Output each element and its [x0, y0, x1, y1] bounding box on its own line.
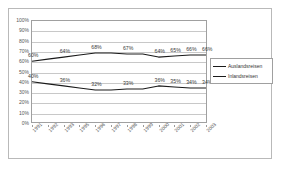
data-label: 35%: [170, 78, 180, 84]
series-line-auslandsreisen: [32, 53, 206, 61]
chart-legend: Auslandsreisen Inlandsreisen: [210, 58, 273, 84]
data-label: 68%: [91, 44, 101, 50]
data-label: 36%: [60, 77, 70, 83]
y-tick-label: 0%: [22, 120, 29, 126]
data-label: 34%: [186, 79, 196, 85]
y-tick-label: 10%: [19, 110, 29, 116]
data-label: 64%: [155, 48, 165, 54]
data-label: 66%: [202, 46, 212, 52]
chart-figure: 100%90%80%70%60%50%40%30%20%10%0% 60%64%…: [0, 0, 282, 169]
y-tick-label: 90%: [19, 27, 29, 33]
series-lines: [31, 20, 207, 123]
legend-entry-inlandsreisen[interactable]: Inlandsreisen: [213, 72, 273, 81]
data-label: 64%: [60, 48, 70, 54]
data-label: 32%: [91, 81, 101, 87]
y-tick-label: 30%: [19, 89, 29, 95]
y-axis: 100%90%80%70%60%50%40%30%20%10%0%: [8, 20, 29, 123]
legend-line-swatch: [213, 76, 226, 77]
data-label: 60%: [28, 52, 38, 58]
data-label: 33%: [123, 80, 133, 86]
y-tick-label: 20%: [19, 99, 29, 105]
y-tick-label: 60%: [19, 58, 29, 64]
y-tick-label: 40%: [19, 79, 29, 85]
legend-label: Inlandsreisen: [228, 72, 258, 81]
legend-line-swatch: [213, 66, 226, 67]
data-label: 67%: [123, 45, 133, 51]
data-label: 65%: [170, 47, 180, 53]
data-label: 36%: [155, 77, 165, 83]
y-tick-label: 80%: [19, 38, 29, 44]
x-axis: 1991199219931995199619971998199920002001…: [31, 125, 211, 153]
data-label: 66%: [186, 46, 196, 52]
data-label: 40%: [28, 73, 38, 79]
y-tick-label: 100%: [16, 17, 29, 23]
legend-entry-auslandsreisen[interactable]: Auslandsreisen: [213, 62, 273, 71]
legend-label: Auslandsreisen: [228, 62, 262, 71]
